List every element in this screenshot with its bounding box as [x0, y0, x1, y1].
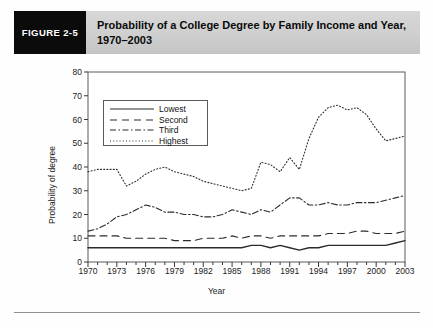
legend-swatch-dashed: [108, 115, 156, 125]
figure-header: FIGURE 2-5 Probability of a College Degr…: [14, 11, 420, 54]
x-tick-label: 1994: [309, 266, 328, 276]
x-tick-label: 1985: [223, 266, 242, 276]
legend-swatch-dash-dot: [108, 125, 156, 135]
x-tick-label: 1979: [165, 266, 184, 276]
figure-number-label: FIGURE 2-5: [22, 27, 78, 38]
legend-label-second: Second: [159, 116, 188, 125]
figure-container: FIGURE 2-5 Probability of a College Degr…: [0, 0, 433, 328]
legend-item-second: Second: [108, 115, 203, 126]
y-tick-marks: [84, 72, 88, 262]
legend-swatch-solid: [108, 104, 156, 114]
legend-item-lowest: Lowest: [108, 104, 203, 115]
x-tick-label: 2003: [396, 266, 415, 276]
legend-label-highest: Highest: [159, 137, 188, 146]
figure-number-badge: FIGURE 2-5: [14, 11, 86, 54]
x-tick-label: 1991: [280, 266, 299, 276]
page-title: Probability of a College Degree by Famil…: [97, 18, 414, 47]
plot-svg: [0, 60, 433, 275]
legend-label-third: Third: [159, 126, 178, 135]
x-tick-label: 1982: [194, 266, 213, 276]
legend-label-lowest: Lowest: [159, 105, 186, 114]
chart-legend: Lowest Second Third Highest: [103, 100, 208, 146]
x-tick-label: 1988: [251, 266, 270, 276]
figure-title-band: Probability of a College Degree by Famil…: [86, 11, 420, 54]
legend-swatch-dotted: [108, 136, 156, 146]
x-tick-label: 1997: [338, 266, 357, 276]
legend-item-highest: Highest: [108, 136, 203, 147]
footer-divider: [14, 312, 420, 313]
x-tick-label: 1976: [136, 266, 155, 276]
chart-area: Probability of degree Year 0102030405060…: [0, 60, 433, 305]
x-axis-title: Year: [0, 286, 433, 296]
x-tick-label: 1970: [79, 266, 98, 276]
x-tick-label: 2000: [367, 266, 386, 276]
legend-item-third: Third: [108, 125, 203, 136]
x-tick-label: 1973: [107, 266, 126, 276]
